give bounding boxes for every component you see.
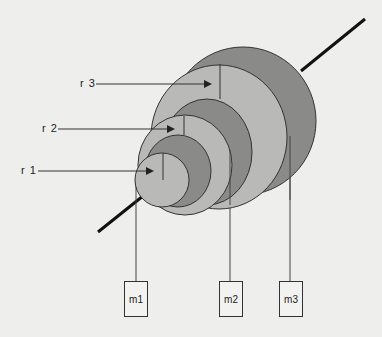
mass-box-m2: m2 [219, 281, 243, 317]
mass-box-m3: m3 [279, 281, 303, 317]
mass-box-m1: m1 [124, 281, 148, 317]
disk-r1-light [135, 153, 189, 207]
diagram-graphic [0, 0, 382, 337]
diagram-canvas: r 3 r 2 r 1 m1 m2 m3 [0, 0, 382, 337]
label-r3: r 3 [80, 77, 96, 89]
label-r2: r 2 [42, 122, 58, 134]
label-r1: r 1 [21, 164, 37, 176]
shaft-upper [301, 19, 365, 71]
